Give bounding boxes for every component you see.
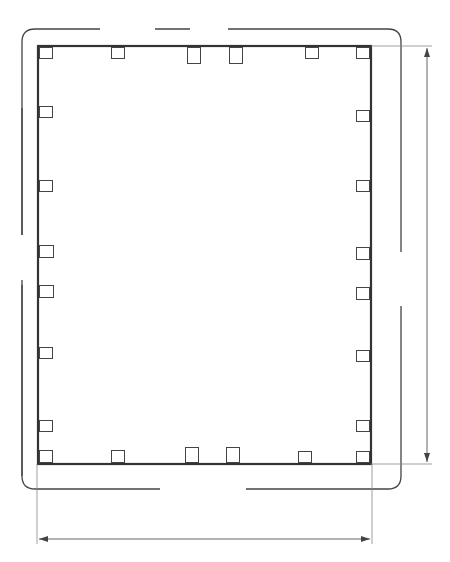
tower — [39, 285, 54, 298]
tower — [39, 47, 53, 59]
tower — [39, 347, 53, 359]
tower — [356, 247, 370, 260]
tower — [39, 420, 53, 432]
tower — [356, 287, 370, 300]
tower — [226, 447, 240, 463]
ditch-outline — [0, 0, 450, 562]
tower — [39, 180, 53, 192]
tower — [229, 47, 243, 64]
tower — [356, 110, 370, 122]
tower — [356, 180, 370, 192]
tower — [356, 47, 370, 59]
tower — [356, 350, 370, 362]
tower — [356, 451, 370, 463]
tower — [111, 450, 125, 463]
tower — [39, 450, 53, 463]
tower — [298, 451, 312, 463]
tower — [39, 245, 54, 258]
tower — [111, 47, 125, 59]
tower — [187, 47, 201, 64]
tower — [356, 420, 370, 432]
tower — [39, 106, 53, 118]
tower — [305, 47, 319, 59]
tower — [185, 447, 199, 463]
